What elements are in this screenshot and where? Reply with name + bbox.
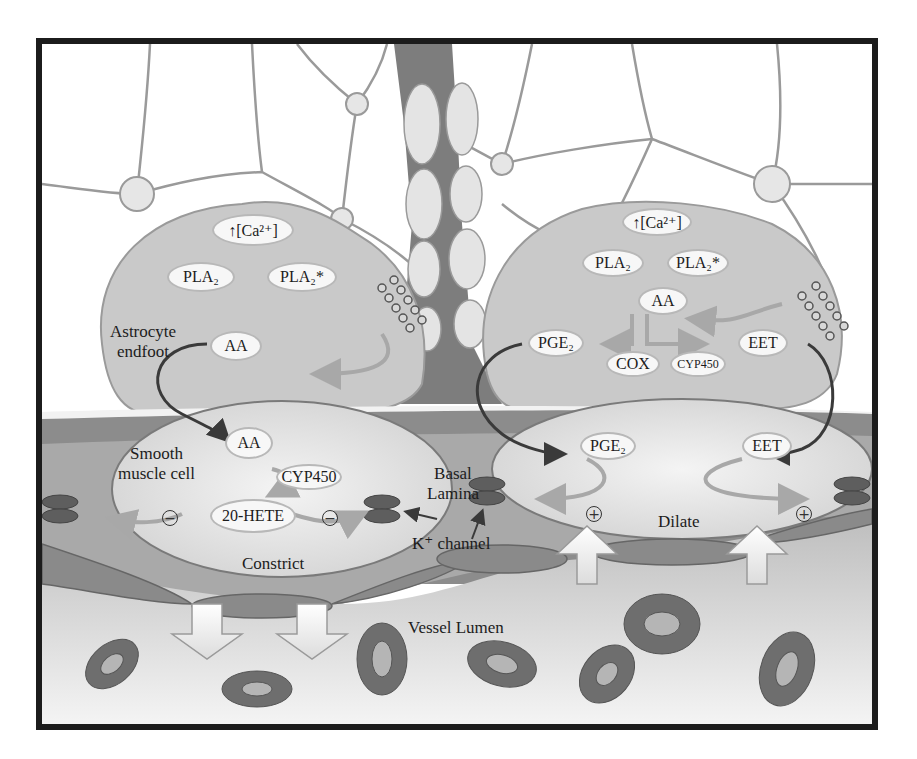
constrict-text: Constrict <box>242 554 304 573</box>
cyp450-text: CYP450 <box>677 357 718 372</box>
pla2-active-text: PLA₂* <box>280 268 324 286</box>
pge2-pill-smooth-muscle: PGE₂ <box>580 432 636 460</box>
pla2-pill-right: PLA₂ <box>582 249 644 277</box>
inhibit-sign-right: − <box>322 510 338 526</box>
cyp450-pill-endfoot: CYP450 <box>670 351 726 377</box>
calcium-pill-right: ↑[Ca²⁺] <box>622 208 692 236</box>
astrocyte-endfoot-label: Astrocyte endfoot <box>110 322 176 361</box>
pla2-text: PLA₂ <box>183 268 219 286</box>
pla2-text: PLA₂ <box>595 254 631 272</box>
minus-sign: − <box>164 510 176 526</box>
eet-text: EET <box>748 334 777 352</box>
plus-sign: + <box>798 506 810 522</box>
smooth-muscle-label-line1: Smooth <box>118 444 195 464</box>
inhibit-sign-left: − <box>162 510 178 526</box>
20-hete-pill: 20-HETE <box>210 499 296 533</box>
20-hete-text: 20-HETE <box>222 507 284 525</box>
basal-lamina-label: Basal Lamina <box>427 464 479 503</box>
vessel-lumen-text: Vessel Lumen <box>408 618 504 637</box>
aa-pill-left-endfoot: AA <box>210 331 262 361</box>
eet-pill-smooth-muscle: EET <box>742 432 792 460</box>
pla2-active-pill-left: PLA₂* <box>267 262 337 292</box>
dilate-label: Dilate <box>658 512 700 532</box>
smooth-muscle-label-line2: muscle cell <box>118 464 195 484</box>
excite-sign-right: + <box>796 506 812 522</box>
excite-sign-left: + <box>586 506 602 522</box>
astrocyte-label-line1: Astrocyte <box>110 322 176 342</box>
plus-sign: + <box>588 506 600 522</box>
k-channel-label: K⁺ channel <box>412 534 490 554</box>
cox-pill: COX <box>606 351 660 377</box>
smooth-muscle-label: Smooth muscle cell <box>118 444 195 483</box>
constrict-label: Constrict <box>242 554 304 574</box>
dilate-text: Dilate <box>658 512 700 531</box>
k-channel-text: K⁺ channel <box>412 534 490 553</box>
calcium-pill-left: ↑[Ca²⁺] <box>212 214 294 246</box>
diagram-frame: ↑[Ca²⁺] PLA₂ PLA₂* Astrocyte endfoot AA … <box>36 38 878 730</box>
pge2-pill-endfoot: PGE₂ <box>528 329 584 357</box>
vessel-lumen-label: Vessel Lumen <box>408 618 504 638</box>
pge2-text: PGE₂ <box>538 334 574 352</box>
aa-text: AA <box>651 292 674 310</box>
eet-pill-endfoot: EET <box>738 329 788 357</box>
cox-text: COX <box>616 355 650 373</box>
basal-lamina-line2: Lamina <box>427 484 479 504</box>
aa-pill-right-endfoot: AA <box>638 287 688 315</box>
aa-pill-smooth-muscle: AA <box>225 427 273 459</box>
pge2-text: PGE₂ <box>590 437 626 455</box>
basal-lamina-line1: Basal <box>427 464 479 484</box>
astrocyte-label-line2: endfoot <box>110 342 176 362</box>
pla2-active-text: PLA₂* <box>676 254 720 272</box>
cyp450-pill-smooth-muscle: CYP450 <box>276 464 342 490</box>
eet-text: EET <box>752 437 781 455</box>
calcium-text: ↑[Ca²⁺] <box>228 221 278 240</box>
pla2-pill-left: PLA₂ <box>167 262 235 292</box>
aa-text: AA <box>224 337 247 355</box>
minus-sign: − <box>324 510 336 526</box>
pla2-active-pill-right: PLA₂* <box>667 249 729 277</box>
aa-text: AA <box>237 434 260 452</box>
cyp450-text: CYP450 <box>281 468 336 486</box>
calcium-text: ↑[Ca²⁺] <box>632 213 682 232</box>
